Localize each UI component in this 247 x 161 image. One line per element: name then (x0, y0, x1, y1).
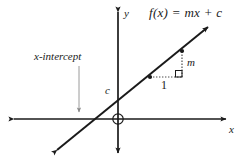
x-axis-label: x (229, 124, 234, 135)
y-intercept-label: c (105, 85, 110, 96)
graph-canvas (0, 0, 247, 161)
right-angle-marker (176, 71, 183, 78)
x-intercept-label: x-intercept (34, 51, 81, 62)
slope-run-label: 1 (161, 79, 167, 91)
slope-point-upper (180, 49, 184, 53)
function-line-segment (57, 27, 208, 150)
function-expression-label: f(x) = mx + c (149, 6, 222, 19)
slope-point-lower (148, 75, 152, 79)
slope-rise-label: m (187, 57, 195, 68)
function-line (57, 27, 208, 150)
y-axis-label: y (124, 8, 129, 19)
linear-function-graph-figure: f(x) = mx + c y x c m 1 x-intercept (0, 0, 247, 161)
